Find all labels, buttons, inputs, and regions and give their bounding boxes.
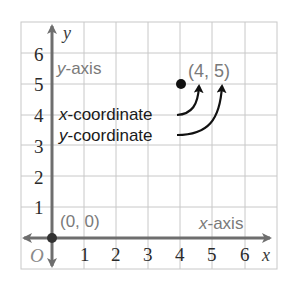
x-coordinate-annotation: x-coordinate — [59, 106, 153, 123]
y-tick-2: 2 — [34, 168, 44, 187]
coordinate-plane-diagram: 6 5 4 3 2 1 1 2 3 4 5 6 y x O y-axis x-a… — [0, 0, 295, 289]
point-4-5-label: (4, 5) — [188, 62, 230, 80]
y-tick-3: 3 — [34, 137, 44, 156]
y-coordinate-annotation: y-coordinate — [59, 127, 153, 144]
origin-point-label: (0, 0) — [60, 213, 100, 230]
y-axis-name: y-axis — [57, 60, 101, 77]
x-tick-6: 6 — [240, 245, 250, 264]
y-coordinate-arrow — [177, 86, 222, 135]
x-tick-2: 2 — [111, 245, 121, 264]
y-tick-6: 6 — [34, 45, 44, 64]
x-tick-5: 5 — [207, 245, 217, 264]
y-tick-5: 5 — [34, 75, 44, 94]
point-4-5 — [176, 79, 186, 89]
y-variable-label: y — [63, 24, 71, 42]
y-tick-1: 1 — [34, 198, 44, 217]
x-tick-1: 1 — [80, 245, 90, 264]
origin-point — [47, 233, 57, 243]
x-axis-name: x-axis — [199, 215, 243, 232]
y-tick-4: 4 — [34, 106, 44, 125]
x-variable-label: x — [262, 246, 270, 264]
x-tick-4: 4 — [175, 245, 185, 264]
origin-label: O — [30, 246, 44, 265]
x-tick-3: 3 — [143, 245, 153, 264]
